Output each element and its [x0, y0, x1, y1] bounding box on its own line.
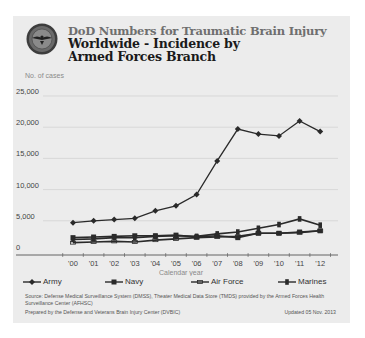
legend-item-navy: Navy — [105, 277, 143, 286]
legend-label: Air Force — [211, 277, 243, 286]
x-axis-label: Calendar year — [159, 269, 204, 276]
x-tick-label: '05 — [171, 259, 181, 268]
x-tick-label: '10 — [274, 259, 284, 268]
prepared-by-note: Prepared by the Defense and Veterans Bra… — [25, 309, 180, 315]
x-tick-label: '07 — [212, 259, 222, 268]
square-marker-icon — [105, 278, 123, 286]
legend-item-army: Army — [23, 277, 62, 286]
x-tick-label: '12 — [315, 259, 325, 268]
series-army — [70, 118, 323, 226]
diamond-marker-icon — [23, 278, 41, 286]
chart-card: DoD Numbers for Traumatic Brain Injury W… — [13, 16, 350, 323]
bar-marker-icon — [278, 278, 296, 286]
updated-date: Updated 05 Nov. 2013 — [284, 309, 336, 315]
legend-item-air-force: Air Force — [191, 277, 243, 286]
x-tick-label: '11 — [295, 259, 304, 268]
y-tick-label: 20,000 — [16, 118, 39, 127]
legend: ArmyNavyAir ForceMarines — [23, 277, 343, 289]
legend-label: Army — [43, 277, 62, 286]
line-chart: 05,00010,00015,00020,00025,000'00'01'02'… — [13, 16, 350, 276]
x-tick-label: '06 — [192, 259, 202, 268]
x-tick-label: '08 — [233, 259, 243, 268]
y-tick-label: 5,000 — [16, 212, 35, 221]
y-tick-label: 15,000 — [16, 149, 39, 158]
legend-label: Navy — [125, 277, 143, 286]
x-tick-label: '03 — [130, 259, 140, 268]
source-note: Source: Defense Medical Surveillance Sys… — [25, 293, 325, 306]
legend-item-marines: Marines — [278, 277, 326, 286]
x-tick-label: '09 — [254, 259, 264, 268]
line-marker-icon — [191, 278, 209, 286]
x-tick-label: '01 — [89, 259, 99, 268]
y-tick-label: 0 — [16, 243, 20, 252]
x-tick-label: '04 — [151, 259, 161, 268]
x-tick-label: '00 — [68, 259, 78, 268]
y-tick-label: 10,000 — [16, 181, 39, 190]
legend-label: Marines — [298, 277, 326, 286]
y-tick-label: 25,000 — [16, 87, 39, 96]
x-tick-label: '02 — [109, 259, 119, 268]
